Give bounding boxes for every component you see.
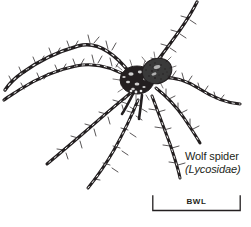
leg-left-4 [88,100,142,188]
scale-bar-label: BWL [152,197,241,206]
leg-left-2 [4,55,133,100]
caption-scientific-name: (Lycosidae) [185,163,251,176]
spider-figure: Wolf spider (Lycosidae) BWL [0,0,251,227]
caption-common-name: Wolf spider [185,150,251,163]
leg-right-4 [149,96,185,178]
leg-left-3 [47,92,132,164]
leg-right-3 [156,88,200,143]
figure-caption: Wolf spider (Lycosidae) [185,150,251,176]
wolf-spider-illustration [0,0,251,227]
